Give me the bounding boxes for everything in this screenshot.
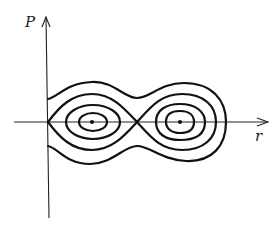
left-center-point: [90, 120, 94, 124]
p-axis-label: P: [24, 13, 36, 31]
right-center-point: [178, 120, 182, 124]
r-axis-label: r: [255, 127, 263, 145]
vertical-axis: [46, 17, 49, 218]
phase-portrait-diagram: P r: [0, 0, 280, 230]
